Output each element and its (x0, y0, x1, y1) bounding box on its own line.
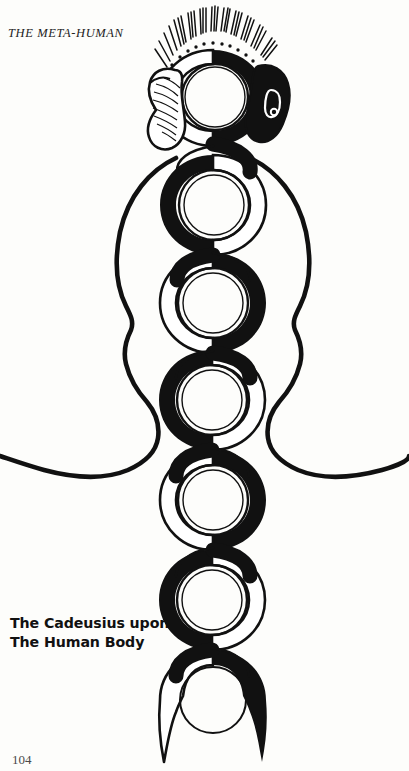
page-number: 104 (12, 752, 32, 768)
figure-caption: The Cadeusius upon The Human Body (10, 614, 185, 652)
serpent-head-right (246, 65, 290, 142)
caduceus-human-body-illustration (0, 0, 409, 771)
figure-caption-line-1: The Cadeusius upon (10, 614, 185, 633)
serpent-head-left (148, 69, 185, 150)
book-page: THE META-HUMAN (0, 0, 409, 771)
figure-plate (0, 0, 409, 771)
figure-caption-line-2: The Human Body (10, 633, 185, 652)
